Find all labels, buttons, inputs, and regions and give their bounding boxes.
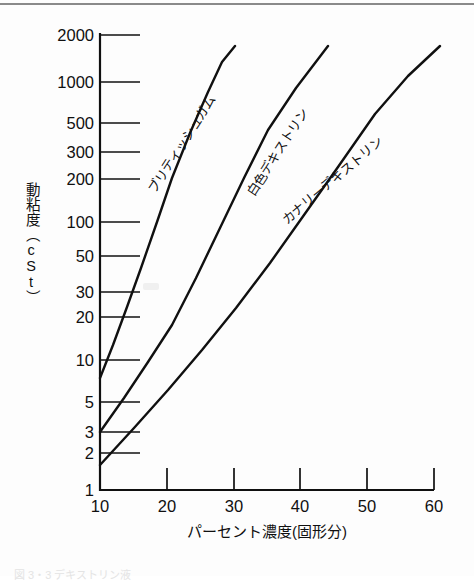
x-tick-label-10: 10: [91, 497, 109, 516]
x-tick-label-20: 20: [158, 497, 176, 516]
y-tick-label-5: 5: [32, 393, 94, 412]
x-tick-marks: [167, 468, 434, 490]
x-tick-label-50: 50: [358, 497, 376, 516]
y-tick-marks: [100, 35, 140, 453]
x-tick-label-30: 30: [225, 497, 243, 516]
y-tick-label-20: 20: [32, 308, 94, 327]
y-tick-label-1000: 1000: [32, 73, 94, 92]
y-tick-label-2: 2: [32, 444, 94, 463]
y-tick-label-1: 1: [32, 481, 94, 500]
y-tick-label-50: 50: [32, 247, 94, 266]
y-tick-label-30: 30: [32, 283, 94, 302]
y-tick-label-200: 200: [32, 170, 94, 189]
figure-caption-partial: 図 3・3 デキストリン液: [14, 566, 131, 582]
x-tick-label-60: 60: [425, 497, 443, 516]
series-line-british-gum: [100, 46, 235, 378]
y-tick-label-500: 500: [32, 114, 94, 133]
y-tick-label-300: 300: [32, 143, 94, 162]
y-tick-label-100: 100: [32, 213, 94, 232]
scan-artifact: [143, 283, 159, 290]
x-axis-title: パーセント濃度(固形分): [100, 520, 434, 541]
y-tick-label-3: 3: [32, 423, 94, 442]
y-tick-label-10: 10: [32, 351, 94, 370]
y-tick-label-2000: 2000: [32, 26, 94, 45]
series-line-canary-dextrin: [100, 46, 440, 465]
x-tick-label-40: 40: [291, 497, 309, 516]
